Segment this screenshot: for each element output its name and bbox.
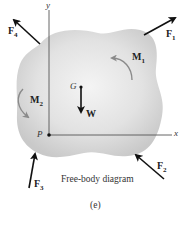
x-axis-label: x	[174, 129, 178, 138]
force-f4-label: F4	[8, 26, 18, 39]
force-f1-label: F1	[166, 29, 176, 42]
diagram-sublabel: (e)	[90, 201, 101, 211]
weight-label: W	[86, 109, 96, 119]
diagram-caption: Free-body diagram	[61, 175, 134, 185]
force-f3-label: F3	[34, 179, 44, 192]
force-f2-label: F2	[157, 161, 167, 174]
moment-m2-label: M2	[30, 95, 43, 108]
point-p-dot	[47, 133, 51, 137]
y-axis-label: y	[46, 1, 50, 10]
point-p-label: P	[37, 130, 43, 139]
moment-m1-label: M1	[132, 52, 145, 65]
point-g-label: G	[70, 82, 77, 91]
